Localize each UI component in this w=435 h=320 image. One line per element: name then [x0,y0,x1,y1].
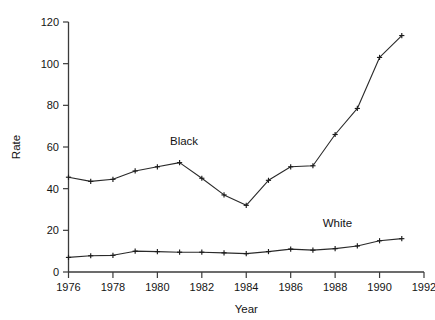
series-label-black: Black [170,135,198,147]
series-line-white [69,239,402,258]
data-point [310,248,315,253]
chart-canvas: 0204060801001201976197819801982198419861… [0,0,435,320]
y-tick-label: 100 [41,58,59,70]
data-point [88,179,93,184]
data-point [88,253,93,258]
data-point [66,255,71,260]
y-tick-label: 60 [47,141,59,153]
data-point [133,168,138,173]
data-point [333,246,338,251]
data-point [133,249,138,254]
x-tick-label: 1982 [190,281,214,293]
y-tick-label: 0 [53,266,59,278]
x-tick-label: 1978 [101,281,125,293]
y-axis-title: Rate [10,135,22,159]
data-point [155,249,160,254]
data-point [221,250,226,255]
x-axis-title: Year [235,303,258,315]
data-point [288,246,293,251]
data-point [355,243,360,248]
x-tick-label: 1976 [56,281,80,293]
x-tick-label: 1992 [412,281,435,293]
y-tick-label: 80 [47,99,59,111]
data-point [266,249,271,254]
series-markers-white [66,236,404,260]
y-tick-label: 120 [41,16,59,28]
data-point [288,164,293,169]
y-tick-label: 20 [47,224,59,236]
series-line-black [69,36,402,206]
data-point [377,238,382,243]
x-tick-label: 1988 [323,281,347,293]
series-label-white: White [323,217,352,229]
data-point [155,164,160,169]
data-point [66,175,71,180]
y-tick-label: 40 [47,183,59,195]
x-tick-label: 1986 [278,281,302,293]
x-tick-label: 1980 [145,281,169,293]
line-chart: 0204060801001201976197819801982198419861… [0,0,435,320]
data-point [177,250,182,255]
data-point [199,250,204,255]
data-point [399,236,404,241]
series-markers-black [66,33,404,208]
data-point [244,251,249,256]
data-point [110,253,115,258]
x-tick-label: 1984 [234,281,258,293]
x-tick-label: 1990 [367,281,391,293]
data-point [110,177,115,182]
